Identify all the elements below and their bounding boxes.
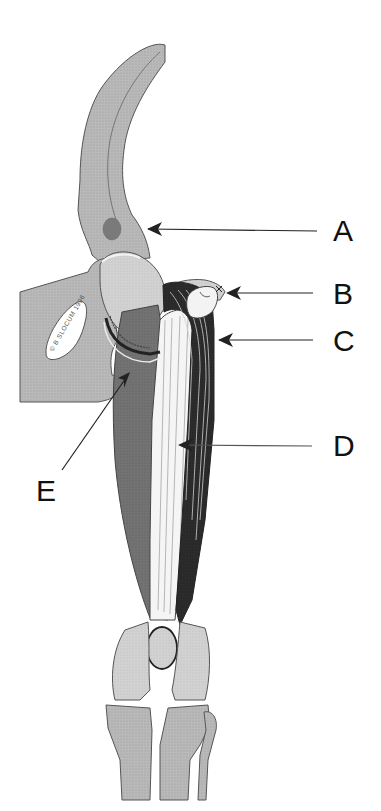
anatomy-figure: © B SLOCUM 1996 xyxy=(0,0,381,811)
label-b: B xyxy=(333,279,353,309)
arrow-a-line xyxy=(148,229,317,231)
iliac-spot xyxy=(103,218,121,240)
label-c: C xyxy=(333,326,355,356)
patella xyxy=(147,627,177,669)
label-e: E xyxy=(36,476,56,506)
label-a: A xyxy=(333,216,353,246)
greater-trochanter xyxy=(187,286,222,318)
tibia-fibula xyxy=(106,705,216,800)
label-d: D xyxy=(333,431,355,461)
